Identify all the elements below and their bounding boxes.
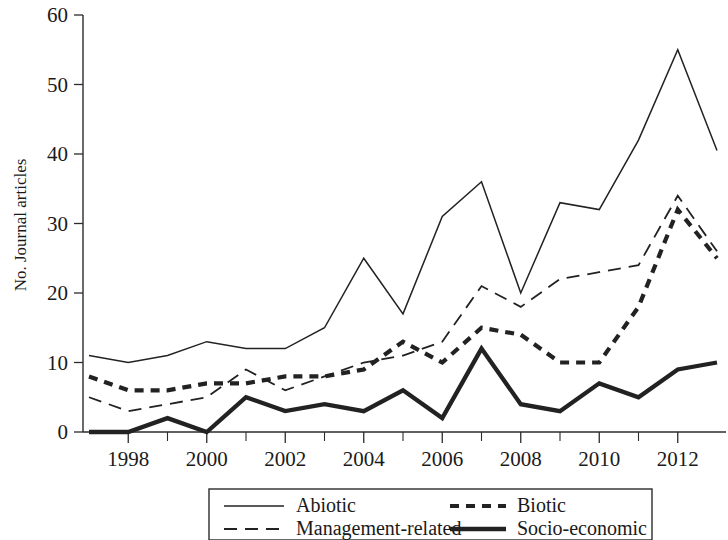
x-axis-tick-labels: 19982000200220042006200820102012 [107, 447, 699, 471]
y-tick-label: 0 [58, 420, 69, 444]
x-tick-label: 2006 [421, 447, 463, 471]
series-line-biotic [89, 210, 717, 391]
x-tick-label: 2010 [578, 447, 620, 471]
y-tick-label: 60 [47, 3, 68, 27]
y-tick-label: 20 [47, 281, 68, 305]
series-line-abiotic [89, 50, 717, 363]
x-tick-label: 2012 [657, 447, 699, 471]
x-tick-label: 1998 [107, 447, 149, 471]
legend-label-socio-economic: Socio-economic [517, 517, 647, 539]
chart-legend: AbioticBioticManagement-relatedSocio-eco… [209, 489, 652, 540]
y-axis: 0102030405060 [47, 3, 83, 444]
y-axis-tick-labels: 0102030405060 [47, 3, 68, 444]
x-tick-label: 2004 [343, 447, 386, 471]
x-axis: 19982000200220042006200820102012 [83, 432, 726, 471]
x-tick-label: 2000 [186, 447, 228, 471]
legend-label-management-related: Management-related [296, 517, 461, 540]
chart-figure: 0102030405060 19982000200220042006200820… [0, 0, 728, 540]
y-tick-label: 40 [47, 142, 68, 166]
line-chart: 0102030405060 19982000200220042006200820… [0, 0, 728, 540]
x-tick-label: 2008 [500, 447, 542, 471]
y-tick-label: 30 [47, 212, 68, 236]
series-line-socio-economic [89, 349, 717, 432]
legend-label-biotic: Biotic [517, 494, 566, 516]
y-tick-label: 50 [47, 73, 68, 97]
y-axis-ticks [74, 15, 83, 432]
data-series-group [89, 50, 717, 432]
series-line-management-related [89, 196, 717, 411]
x-tick-label: 2002 [264, 447, 306, 471]
x-axis-minor-ticks [168, 432, 639, 441]
legend-label-abiotic: Abiotic [296, 494, 356, 516]
y-axis-label: No. Journal articles [11, 159, 30, 292]
y-tick-label: 10 [47, 351, 68, 375]
